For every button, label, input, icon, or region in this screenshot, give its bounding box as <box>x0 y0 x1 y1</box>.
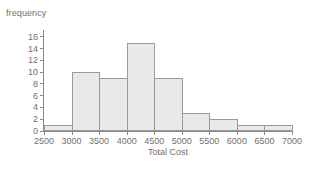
y-tick-mark <box>40 119 44 120</box>
x-tick-label: 4500 <box>144 136 164 146</box>
y-tick-label: 0 <box>33 126 38 136</box>
y-axis-title: frequency <box>6 8 46 18</box>
x-tick-mark <box>292 131 293 135</box>
x-tick-label: 3500 <box>89 136 109 146</box>
y-tick-label: 8 <box>33 79 38 89</box>
histogram-chart: frequency 024681012141625003000350040004… <box>0 0 312 174</box>
y-tick-mark <box>40 60 44 61</box>
x-tick-mark <box>72 131 73 135</box>
y-tick-label: 16 <box>28 32 38 42</box>
histogram-bar <box>127 43 156 131</box>
x-tick-label: 6500 <box>254 136 274 146</box>
x-tick-label: 5000 <box>172 136 192 146</box>
y-tick-mark <box>40 95 44 96</box>
y-tick-mark <box>40 83 44 84</box>
x-tick-label: 7000 <box>282 136 302 146</box>
x-tick-mark <box>44 131 45 135</box>
x-tick-mark <box>182 131 183 135</box>
histogram-bar <box>44 125 73 131</box>
y-tick-mark <box>40 72 44 73</box>
y-tick-label: 6 <box>33 91 38 101</box>
histogram-bar <box>99 78 128 131</box>
x-tick-label: 2500 <box>34 136 54 146</box>
y-tick-label: 2 <box>33 114 38 124</box>
y-tick-mark <box>40 48 44 49</box>
y-tick-label: 14 <box>28 44 38 54</box>
x-tick-mark <box>264 131 265 135</box>
x-tick-label: 5500 <box>199 136 219 146</box>
plot-area: 0246810121416250030003500400045005000550… <box>44 31 292 131</box>
x-tick-label: 3000 <box>62 136 82 146</box>
x-axis-title: Total Cost <box>44 147 292 157</box>
x-tick-mark <box>127 131 128 135</box>
y-tick-mark <box>40 36 44 37</box>
y-tick-mark <box>40 107 44 108</box>
histogram-bar <box>72 72 101 131</box>
y-tick-label: 4 <box>33 102 38 112</box>
x-tick-mark <box>209 131 210 135</box>
x-axis-line <box>43 131 293 132</box>
histogram-bar <box>264 125 293 131</box>
x-tick-mark <box>99 131 100 135</box>
histogram-bar <box>154 78 183 131</box>
x-tick-label: 4000 <box>117 136 137 146</box>
x-tick-mark <box>154 131 155 135</box>
histogram-bar <box>209 119 238 131</box>
x-tick-label: 6000 <box>227 136 247 146</box>
histogram-bar <box>182 113 211 131</box>
y-tick-label: 10 <box>28 67 38 77</box>
y-tick-label: 12 <box>28 55 38 65</box>
x-tick-mark <box>237 131 238 135</box>
histogram-bar <box>237 125 266 131</box>
